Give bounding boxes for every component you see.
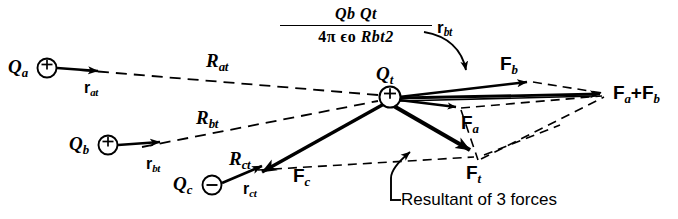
charge-label-Qa: Qa — [8, 57, 28, 80]
force-vector-Ft — [392, 105, 470, 150]
charge-Qt-symbol — [380, 87, 401, 108]
unit-vector-rbt — [118, 142, 160, 145]
force-label-Fc: Fc — [293, 166, 310, 189]
charge-Qb-symbol — [99, 136, 118, 155]
force-label-Fa-plus-Fb: Fa+Fb — [613, 83, 660, 106]
unit-vector-label-rct: rct — [243, 181, 256, 199]
force-label-Fb: Fb — [500, 54, 518, 77]
charge-Qc-symbol — [203, 176, 222, 195]
formula-numerator: Qb Qt — [280, 5, 432, 24]
formula-denominator: 4π ϵo Rbt2 — [280, 27, 432, 46]
distance-label-Rbt: Rbt — [196, 108, 218, 131]
coulomb-law-formula: Qb Qt 4π ϵo Rbt2 — [280, 5, 432, 46]
force-label-Ft: Ft — [466, 163, 481, 186]
resultant-Fa-plus-Fb-group — [399, 94, 600, 101]
force-vector-Ft-group — [392, 105, 470, 150]
distance-line-Rat — [80, 70, 378, 95]
charge-label-Qb: Qb — [69, 134, 89, 157]
charge-Qa-symbol — [38, 59, 57, 78]
force-label-Fa: Fa — [461, 113, 479, 136]
force-vector-Fc-group — [262, 104, 384, 172]
construction-line-Fc-to-Ft — [258, 157, 474, 170]
force-vector-Fc — [262, 104, 384, 172]
formula-unit-vector-rbt: rbt — [437, 19, 452, 39]
charge-label-Qc: Qc — [173, 174, 192, 197]
formula-fraction-bar — [280, 25, 432, 26]
caption-resultant-of-3-forces: Resultant of 3 forces — [401, 190, 557, 210]
distance-label-Rct: Rct — [229, 149, 250, 172]
unit-vector-rat — [57, 68, 98, 71]
construction-line-Ft-extension — [484, 125, 560, 155]
distance-line-Rbt — [142, 101, 378, 147]
unit-vector-label-rat: rat — [84, 80, 98, 98]
charge-label-Qt: Qt — [376, 64, 393, 87]
distance-label-Rat: Rat — [206, 51, 228, 74]
unit-vector-label-rbt: rbt — [146, 156, 160, 174]
coulomb-force-diagram: Qa Qb Qc Qt rat rbt rct Rat Rbt Rct Fb F… — [0, 0, 678, 219]
construction-line-Fb-to-resultant — [533, 82, 602, 93]
